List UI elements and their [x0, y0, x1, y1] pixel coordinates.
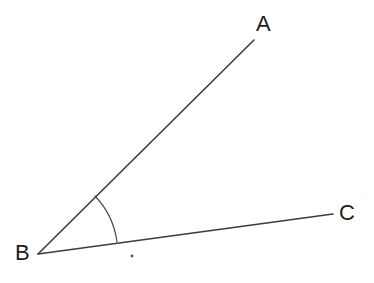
point-label-a: A — [256, 13, 271, 35]
angle-diagram-canvas: A B C — [0, 0, 374, 283]
ray-bc-line — [38, 214, 333, 254]
interior-dot — [131, 255, 134, 258]
ray-ba-line — [38, 40, 254, 254]
angle-arc-path — [95, 196, 117, 242]
point-label-c: C — [339, 202, 355, 224]
point-label-b: B — [15, 242, 30, 264]
angle-diagram-svg — [0, 0, 374, 283]
